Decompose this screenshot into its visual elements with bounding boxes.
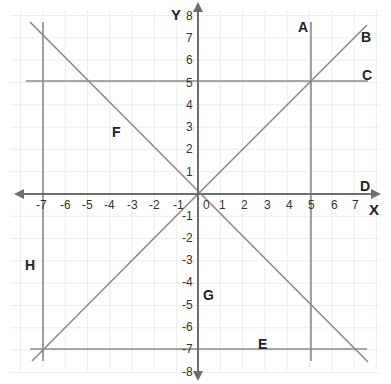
svg-text:0: 0 [203, 198, 210, 212]
svg-text:6: 6 [331, 198, 338, 212]
svg-text:-6: -6 [182, 320, 193, 334]
label-g: G [203, 287, 214, 303]
label-b: B [361, 29, 371, 45]
svg-text:8: 8 [186, 9, 193, 23]
svg-text:3: 3 [264, 198, 271, 212]
svg-text:-2: -2 [149, 198, 160, 212]
svg-text:5: 5 [186, 76, 193, 90]
svg-text:7: 7 [352, 198, 359, 212]
svg-text:7: 7 [186, 31, 193, 45]
svg-text:-7: -7 [36, 198, 47, 212]
label-e: E [258, 336, 267, 352]
label-c: C [362, 67, 372, 83]
svg-text:1: 1 [186, 165, 193, 179]
svg-text:2: 2 [186, 142, 193, 156]
y-axis-up-arrow-icon [193, 2, 203, 12]
svg-text:-4: -4 [104, 198, 115, 212]
y-tick-labels-positive: 1 2 3 4 5 6 7 8 [186, 9, 193, 179]
svg-text:4: 4 [186, 98, 193, 112]
line-b [198, 25, 367, 194]
svg-text:5: 5 [308, 198, 315, 212]
svg-text:-5: -5 [82, 198, 93, 212]
x-axis-left-arrow-icon [14, 189, 24, 199]
svg-text:3: 3 [186, 120, 193, 134]
svg-text:1: 1 [219, 198, 226, 212]
svg-text:-5: -5 [182, 298, 193, 312]
label-d: D [360, 178, 370, 194]
svg-text:6: 6 [186, 53, 193, 67]
svg-text:4: 4 [286, 198, 293, 212]
y-axis-label: Y [171, 6, 181, 23]
label-h: H [25, 257, 35, 273]
svg-text:-1: -1 [182, 209, 193, 223]
coordinate-plane: Y X -7 -6 -5 -4 -3 -2 -1 0 1 2 3 4 5 6 7… [0, 0, 391, 384]
line-g [32, 194, 198, 361]
svg-text:-8: -8 [182, 365, 193, 379]
label-f: F [112, 124, 121, 140]
svg-text:-7: -7 [182, 342, 193, 356]
y-tick-labels-negative: -1 -2 -3 -4 -5 -6 -7 -8 [182, 209, 193, 379]
label-a: A [298, 19, 308, 35]
svg-text:-3: -3 [182, 253, 193, 267]
svg-text:-3: -3 [127, 198, 138, 212]
svg-text:2: 2 [241, 198, 248, 212]
x-axis-label: X [369, 201, 379, 218]
svg-text:-4: -4 [182, 275, 193, 289]
svg-text:-2: -2 [182, 231, 193, 245]
svg-text:-6: -6 [60, 198, 71, 212]
y-axis-down-arrow-icon [193, 371, 203, 381]
